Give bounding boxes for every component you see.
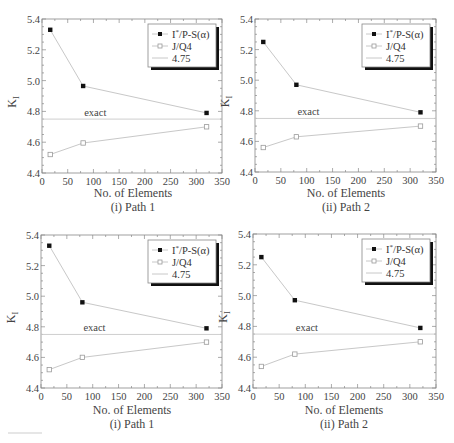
y-tick-label: 4.4 xyxy=(240,167,254,178)
legend-label: J/Q4 xyxy=(172,41,193,52)
filled-square-marker xyxy=(259,255,263,259)
y-tick-label: 4.6 xyxy=(238,352,251,363)
legend-label: J/Q4 xyxy=(172,257,193,268)
chart-panel-top-left: 0501001502002503003504.44.64.85.05.25.4K… xyxy=(0,0,227,220)
legend-filled-square-icon xyxy=(372,247,376,251)
y-tick-label: 4.6 xyxy=(240,136,253,147)
x-tick-label: 0 xyxy=(38,391,43,402)
legend-open-square-icon xyxy=(372,259,376,263)
panel-caption: (i) Path 1 xyxy=(42,200,224,214)
x-tick-label: 200 xyxy=(350,391,366,402)
x-axis-title: No. of Elements xyxy=(42,186,224,200)
y-axis-title: KI xyxy=(4,312,20,324)
x-tick-label: 250 xyxy=(376,391,392,402)
x-tick-label: 150 xyxy=(324,391,340,402)
x-axis-title: No. of Elements xyxy=(253,403,435,417)
legend-open-square-icon xyxy=(158,44,162,48)
open-square-marker xyxy=(47,367,51,371)
panel-caption: (i) Path 1 xyxy=(41,417,223,431)
chart-panel-bottom-left: 0501001502002503003504.44.64.85.05.25.4K… xyxy=(0,216,227,443)
filled-square-marker xyxy=(48,28,52,32)
x-tick-label: 50 xyxy=(274,391,285,402)
y-tick-label: 4.8 xyxy=(26,322,39,333)
exact-annotation: exact xyxy=(297,106,319,117)
legend: I*/P-S(α)J/Q44.75 xyxy=(362,239,433,285)
x-tick-label: 150 xyxy=(111,391,127,402)
legend-filled-square-icon xyxy=(158,248,162,252)
panel-caption: (ii) Path 2 xyxy=(255,200,437,214)
y-tick-label: 5.2 xyxy=(240,45,253,56)
exact-annotation: exact xyxy=(296,322,318,333)
y-axis-title: KI xyxy=(5,96,21,108)
y-tick-label: 5.0 xyxy=(27,76,40,87)
x-axis-title: No. of Elements xyxy=(41,403,223,417)
x-tick-label: 350 xyxy=(428,391,444,402)
filled-square-marker xyxy=(204,111,208,115)
page-artifact xyxy=(8,432,42,434)
y-tick-label: 5.2 xyxy=(26,261,39,272)
y-tick-label: 5.0 xyxy=(238,291,251,302)
x-tick-label: 0 xyxy=(252,175,257,186)
y-tick-label: 4.8 xyxy=(240,106,253,117)
open-square-marker xyxy=(293,352,297,356)
series-j-q4 xyxy=(259,340,422,369)
open-square-marker xyxy=(81,141,85,145)
filled-square-marker xyxy=(418,110,422,114)
legend-label: 4.75 xyxy=(172,269,190,280)
x-tick-label: 50 xyxy=(276,175,287,186)
open-square-marker xyxy=(48,152,52,156)
y-tick-label: 5.0 xyxy=(240,75,253,86)
chart-panel-bottom-right: 0501001502002503003504.44.64.85.05.25.4K… xyxy=(227,216,454,443)
legend: I*/P-S(α)J/Q44.75 xyxy=(148,24,219,70)
x-tick-label: 300 xyxy=(188,391,204,402)
y-tick-label: 4.6 xyxy=(26,352,39,363)
y-tick-label: 5.2 xyxy=(238,260,251,271)
filled-square-marker xyxy=(294,83,298,87)
filled-square-marker xyxy=(418,326,422,330)
panel-caption: (ii) Path 2 xyxy=(253,417,435,431)
x-tick-label: 100 xyxy=(85,391,101,402)
chart-panel-top-right: 0501001502002503003504.44.64.85.05.25.4K… xyxy=(227,0,454,220)
legend-label: J/Q4 xyxy=(386,256,407,267)
exact-annotation: exact xyxy=(84,107,106,118)
filled-square-marker xyxy=(81,84,85,88)
open-square-marker xyxy=(418,340,422,344)
legend: I*/P-S(α)J/Q44.75 xyxy=(148,240,219,286)
y-tick-label: 5.4 xyxy=(27,14,41,25)
filled-square-marker xyxy=(80,300,84,304)
filled-square-marker xyxy=(293,298,297,302)
x-tick-label: 350 xyxy=(428,175,444,186)
legend-label: J/Q4 xyxy=(386,41,407,52)
y-tick-label: 5.2 xyxy=(27,45,40,56)
y-tick-label: 4.4 xyxy=(27,168,41,179)
x-tick-label: 200 xyxy=(351,175,367,186)
x-axis-title: No. of Elements xyxy=(255,186,437,200)
y-tick-label: 5.4 xyxy=(238,229,252,240)
y-tick-label: 4.6 xyxy=(27,137,40,148)
legend-filled-square-icon xyxy=(372,32,376,36)
open-square-marker xyxy=(204,340,208,344)
x-tick-label: 100 xyxy=(299,175,315,186)
x-tick-label: 0 xyxy=(250,391,255,402)
open-square-marker xyxy=(204,125,208,129)
legend-label: 4.75 xyxy=(172,53,190,64)
series-j-q4 xyxy=(47,340,209,372)
legend-open-square-icon xyxy=(372,44,376,48)
exact-annotation: exact xyxy=(83,322,105,333)
open-square-marker xyxy=(80,355,84,359)
x-tick-label: 100 xyxy=(297,391,313,402)
open-square-marker xyxy=(261,145,265,149)
open-square-marker xyxy=(418,124,422,128)
legend-label: 4.75 xyxy=(386,268,404,279)
series-j-q4 xyxy=(261,124,423,150)
open-square-marker xyxy=(294,135,298,139)
y-tick-label: 5.0 xyxy=(26,291,39,302)
filled-square-marker xyxy=(204,326,208,330)
x-tick-label: 250 xyxy=(376,175,392,186)
x-tick-label: 150 xyxy=(325,175,341,186)
legend-open-square-icon xyxy=(158,260,162,264)
x-tick-label: 300 xyxy=(402,391,418,402)
y-tick-label: 4.4 xyxy=(26,383,40,394)
y-tick-label: 4.8 xyxy=(238,321,251,332)
x-tick-label: 300 xyxy=(402,175,418,186)
